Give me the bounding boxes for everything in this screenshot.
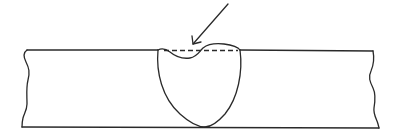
weld-left-boundary [158,50,205,127]
weld-right-boundary [205,50,241,127]
defect-arrow [192,4,228,44]
plate-top-edge-right [240,50,373,51]
weld-nugget [158,44,241,127]
plate-right-break-line [370,51,379,128]
arrow-shaft [193,4,228,44]
base-plate [22,50,379,128]
plate-bottom-edge [22,127,379,128]
plate-left-break-line [22,50,29,127]
diagram-canvas [0,0,397,137]
